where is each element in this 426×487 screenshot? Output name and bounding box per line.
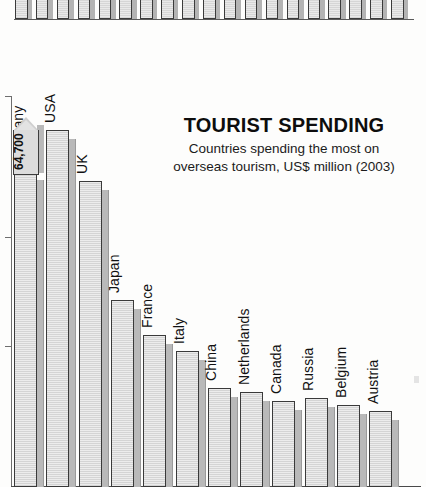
bar-label-usa: USA <box>42 94 58 123</box>
bar-group: France <box>143 335 166 487</box>
chart-page: 64,700 GermanyUSAUKJapanFranceItalyChina… <box>0 0 426 487</box>
bar-shadow <box>69 139 76 487</box>
chart-subtitle: Countries spending the most on overseas … <box>150 140 418 176</box>
bar-shadow <box>328 407 335 487</box>
bar-label-uk: UK <box>74 154 90 174</box>
bar-japan <box>111 300 134 487</box>
bar-canada <box>272 401 295 487</box>
scan-artifact <box>414 376 419 383</box>
bar-label-canada: Canada <box>268 344 284 394</box>
bar-china <box>208 388 231 487</box>
bar-group: Belgium <box>337 405 360 487</box>
bar-shadow <box>37 180 44 487</box>
bar-shadow <box>392 420 399 487</box>
bar-group: Austria <box>369 411 392 487</box>
bar-group: UK <box>79 181 102 487</box>
chart-title-block: TOURIST SPENDING Countries spending the … <box>150 115 418 176</box>
bar-france <box>143 335 166 487</box>
bar-shadow <box>360 414 367 487</box>
bar-group: China <box>208 388 231 487</box>
bar-austria <box>369 411 392 487</box>
bar-group: Japan <box>111 300 134 487</box>
bar-usa <box>46 130 69 487</box>
y-axis-tick <box>5 237 12 238</box>
bar-italy <box>176 351 199 487</box>
bar-shadow <box>263 401 270 487</box>
bar-label-russia: Russia <box>300 348 316 391</box>
y-axis-tick <box>5 96 12 97</box>
bar-shadow <box>295 410 302 487</box>
chart-subtitle-line-2: overseas tourism, US$ million (2003) <box>150 158 418 176</box>
bar-label-japan: Japan <box>106 254 122 293</box>
bar-shadow <box>134 309 141 487</box>
bar-label-china: China <box>203 344 219 381</box>
bar-label-italy: Italy <box>171 318 187 344</box>
bar-shadow <box>102 190 109 487</box>
bar-russia <box>305 398 328 487</box>
bar-group: Russia <box>305 398 328 487</box>
callout-body: 64,700 <box>13 130 39 175</box>
bar-group: Netherlands <box>240 392 263 487</box>
chart-title: TOURIST SPENDING <box>150 115 418 136</box>
tourist-spending-bar-chart: 64,700 GermanyUSAUKJapanFranceItalyChina… <box>0 0 426 487</box>
bar-label-austria: Austria <box>365 360 381 404</box>
bar-germany <box>14 171 37 487</box>
bar-label-netherlands: Netherlands <box>236 308 252 385</box>
callout-value-label: 64,700 <box>12 133 26 170</box>
bar-label-belgium: Belgium <box>333 346 349 397</box>
bar-shadow <box>166 344 173 487</box>
bar-netherlands <box>240 392 263 487</box>
bar-shadow <box>231 397 238 487</box>
bar-group: Italy <box>176 351 199 487</box>
bar-group: Canada <box>272 401 295 487</box>
bar-group: Germany <box>14 171 37 487</box>
bar-uk <box>79 181 102 487</box>
bar-belgium <box>337 405 360 487</box>
chart-subtitle-line-1: Countries spending the most on <box>150 140 418 158</box>
bar-group: USA <box>46 130 69 487</box>
y-axis-tick <box>5 346 12 347</box>
bar-label-france: France <box>139 284 155 328</box>
